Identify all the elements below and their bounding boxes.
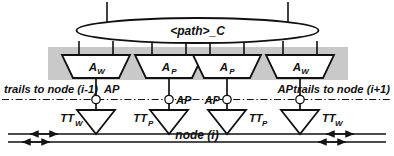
amplifier-output-stems [96, 78, 300, 99]
transceiver-tt-w-left: TT W [60, 110, 115, 134]
bus-label: <path>_C [170, 24, 225, 38]
node-label: node (i) [175, 128, 218, 142]
access-point-4-label: AP [276, 83, 293, 95]
transceiver-input-stems [96, 103, 300, 110]
amplifier-a-p-right-label: A [219, 61, 228, 73]
diagram-svg: <path>_C A W A [0, 0, 394, 156]
trails-left-label: trails to node (i-1) [4, 83, 98, 95]
transceiver-tt-p-left-subscript: P [148, 119, 154, 128]
fiber-direction-markers-left [22, 134, 58, 142]
transceiver-tt-w-right: TT W [281, 110, 344, 134]
transceiver-tt-w-left-subscript: W [75, 119, 84, 128]
amplifier-a-w-left: A W [62, 55, 130, 78]
amplifier-a-p-right-subscript: P [229, 67, 235, 76]
access-point-3-label: AP [203, 94, 220, 106]
transceiver-tt-p-left-label: TT [133, 112, 148, 124]
amplifier-a-w-left-label: A [88, 61, 97, 73]
access-point-1-label: AP [103, 83, 120, 95]
fiber-direction-markers-right [318, 134, 354, 142]
amplifier-a-p-left-subscript: P [171, 67, 177, 76]
amplifier-a-p-left: A P [135, 55, 203, 78]
amplifier-a-p-left-label: A [161, 61, 170, 73]
transceiver-tt-w-right-subscript: W [335, 119, 344, 128]
amplifier-a-p-right: A P [193, 55, 261, 78]
figure-canvas: <path>_C A W A [0, 0, 394, 156]
trails-right-label: trails to node (i+1) [293, 83, 390, 95]
access-point-2-label: AP [175, 94, 192, 106]
amplifier-a-w-right: A W [266, 55, 334, 78]
transceiver-tt-p-right-subscript: P [262, 119, 268, 128]
transceiver-tt-w-left-label: TT [60, 112, 75, 124]
amplifier-a-w-right-label: A [292, 61, 301, 73]
